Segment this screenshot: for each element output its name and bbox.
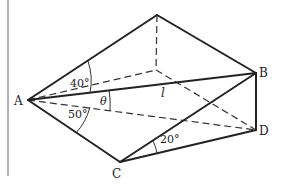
point-label-C: C bbox=[112, 167, 121, 181]
hidden-edge-apex-inner bbox=[156, 15, 157, 70]
hidden-edge-A-inner bbox=[28, 70, 156, 100]
geometry-figure: A B C D 40° 50° θ l 20° bbox=[0, 0, 284, 184]
angle-arcs bbox=[76, 61, 157, 153]
edge-apex-B bbox=[157, 15, 256, 73]
arc-20-at-C bbox=[153, 141, 157, 153]
arc-theta-at-A bbox=[109, 90, 110, 110]
segment-label-l: l bbox=[161, 86, 165, 100]
visible-edges bbox=[28, 15, 256, 162]
angle-label-50: 50° bbox=[68, 108, 88, 121]
angle-label-40: 40° bbox=[70, 77, 90, 90]
hidden-edge-A-D bbox=[28, 100, 256, 130]
edge-C-D bbox=[120, 130, 256, 162]
angle-label-theta: θ bbox=[100, 95, 107, 108]
point-label-B: B bbox=[259, 66, 268, 80]
angle-label-20: 20° bbox=[160, 133, 180, 146]
point-label-A: A bbox=[13, 94, 23, 108]
point-label-D: D bbox=[259, 124, 269, 138]
hidden-edges bbox=[28, 15, 256, 130]
